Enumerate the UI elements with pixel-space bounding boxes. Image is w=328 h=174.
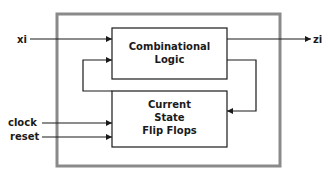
input-xi-label: xi (17, 34, 27, 45)
current-state-label-line1: Current (148, 99, 191, 110)
combinational-logic-block: Combinational Logic (112, 28, 227, 79)
state-feedback-arrow (83, 60, 112, 91)
sequential-circuit-diagram: Combinational Logic Current State Flip F… (0, 0, 328, 174)
current-state-flip-flops-block: Current State Flip Flops (112, 91, 227, 147)
combinational-logic-label-line1: Combinational (129, 41, 210, 52)
input-reset-label: reset (10, 131, 39, 142)
output-zi-label: zi (313, 34, 322, 45)
input-clock-label: clock (8, 117, 37, 128)
current-state-label-line2: State (154, 112, 185, 123)
next-state-arrow (227, 60, 256, 111)
current-state-label-line3: Flip Flops (142, 125, 197, 136)
combinational-logic-label-line2: Logic (155, 54, 185, 65)
